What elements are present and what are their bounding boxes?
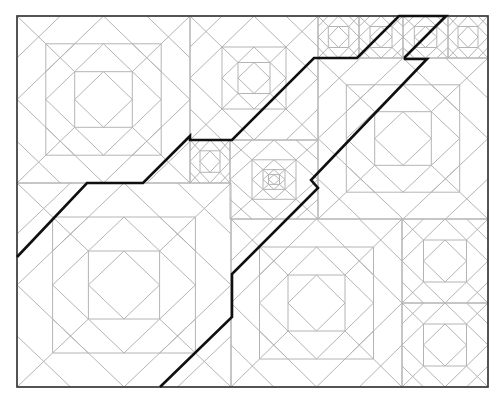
quilt-block-motif bbox=[17, 16, 190, 183]
quilt-block-small-left bbox=[190, 140, 230, 183]
quilt-block-motif bbox=[359, 16, 403, 58]
quilt-block-top-strip-1 bbox=[318, 16, 359, 58]
quilt-block-motif bbox=[318, 58, 488, 219]
quilt-block-top-strip-4 bbox=[448, 16, 488, 58]
quilt-block-right-col-1 bbox=[402, 219, 488, 303]
quilt-block-motif bbox=[230, 140, 318, 219]
quilt-pattern-figure bbox=[0, 0, 503, 400]
quilt-block-motif bbox=[402, 303, 488, 387]
quilt-block-motif bbox=[318, 16, 359, 58]
quilt-block-center-focus bbox=[230, 140, 318, 219]
quilt-block-motif bbox=[190, 16, 318, 140]
quilt-block-motif bbox=[17, 183, 231, 387]
quilt-pattern-canvas bbox=[0, 0, 503, 400]
quilt-block-motif bbox=[402, 219, 488, 303]
quilt-block-motif bbox=[231, 219, 402, 387]
quilt-block-bottom-left bbox=[17, 183, 231, 387]
quilt-block-bottom-middle bbox=[231, 219, 402, 387]
quilt-block-top-middle bbox=[190, 16, 318, 140]
quilt-block-right-col-2 bbox=[402, 303, 488, 387]
quilt-block-motif bbox=[448, 16, 488, 58]
quilt-block-motif bbox=[190, 140, 230, 183]
quilt-block-top-left bbox=[17, 16, 190, 183]
quilt-block-center-right bbox=[318, 58, 488, 219]
quilt-block-top-strip-2 bbox=[359, 16, 403, 58]
